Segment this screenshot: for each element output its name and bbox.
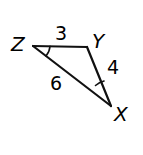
geometry-figure: Z Y X 3 4 6	[0, 0, 143, 155]
side-length-label-zx: 6	[50, 74, 62, 93]
vertex-label-x: X	[114, 104, 128, 124]
vertex-label-y: Y	[92, 31, 104, 51]
angle-mark-z-arc	[46, 46, 50, 56]
vertex-label-z: Z	[11, 34, 25, 54]
segment-zy	[33, 46, 87, 47]
side-length-label-zy: 3	[55, 24, 67, 43]
triangle-drawing	[0, 0, 143, 155]
side-length-label-yx: 4	[107, 58, 119, 77]
